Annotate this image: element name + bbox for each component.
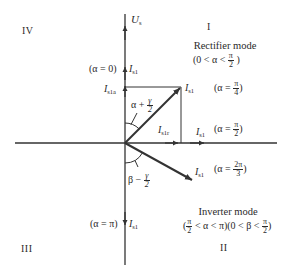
2pi3-ann-suffix: ) [243,163,246,174]
rectifier-angle-label: α + γ2 [131,97,153,114]
rect-angle-den: 2 [147,106,153,114]
inverter-mode-title: Inverter mode [178,207,278,218]
alpha-2pi3-annotation: (α = 2π3) [214,161,247,178]
is1a-label: Is1a [104,84,116,96]
is1-pi2-sub: s1 [199,131,205,138]
alpha-pi4-annotation: (α = π4) [214,80,243,97]
is1-alpha-2pi3-label: Is1 [195,167,204,179]
is1r-label: Is1r [158,125,169,137]
2pi3-ann-prefix: (α = [214,163,231,174]
quadrant-label-ii: II [220,243,228,253]
2pi3-ann-frac: 2π3 [233,161,243,178]
rect-cond-frac: π2 [228,52,234,69]
rect-cond-suffix: ) [236,54,239,65]
pi2-ann-prefix: (α = [214,123,231,134]
rect-cond-den: 2 [228,61,234,69]
quadrant-label-i: I [207,22,211,32]
alpha-pi2-annotation: (α = π2) [214,121,243,138]
inv-angle-frac: γ2 [144,172,150,189]
quadrant-label-iv: IV [22,26,34,36]
2pi3-ann-den: 3 [233,170,243,178]
inverter-mode-condition: (π2 < α < π)(0 < β < π2) [183,218,271,235]
rect-angle-prefix: α + [131,99,144,110]
is1-alphapi-label: Is1 [129,219,138,231]
inv-angle-den: 2 [144,181,150,189]
inv-cond-frac1: π2 [186,218,192,235]
inv-cond-close: ) [268,220,271,231]
inverter-angle-pointer [135,161,138,168]
pi4-ann-suffix: ) [239,82,242,93]
us-label-sub: s [139,19,142,26]
is1a-sub: s1a [107,88,116,95]
quadrant-label-iii: III [21,244,33,254]
rectifier-mode-condition: (0 < α < π2 ) [193,52,240,69]
is1-alphapi-sub: s1 [132,223,138,230]
alpha-pi-annotation: (α = π) [90,219,118,229]
pi4-ann-prefix: (α = [214,82,231,93]
rectifier-angle-arc [125,123,139,129]
rect-cond-prefix: (0 < α < [193,54,225,65]
is1-alpha0-label: Is1 [129,64,138,76]
alpha-0-annotation: (α = 0) [89,64,117,74]
rectifier-mode-title: Rectifier mode [180,41,270,52]
us-axis-label: Us [131,14,141,27]
rectifier-angle-pointer [131,113,137,125]
inverter-angle-label: β − γ2 [128,172,150,189]
inv-angle-prefix: β − [128,174,141,185]
rect-angle-frac: γ2 [147,97,153,114]
inv-cond-den1: 2 [186,227,192,235]
us-label-main: U [131,13,139,25]
inv-cond-mid: < α < π)(0 < β < [195,220,260,231]
is1-2pi3-sub: s1 [198,171,204,178]
is1-alpha0-sub: s1 [132,68,138,75]
is1-pi4-sub: s1 [188,87,194,94]
pi2-ann-suffix: ) [239,123,242,134]
inverter-angle-arc [125,153,143,163]
is1-alpha-pi2-label: Is1 [196,127,205,139]
is1-alpha-pi4-label: Is1 [185,83,194,95]
is1r-sub: s1r [161,129,169,136]
